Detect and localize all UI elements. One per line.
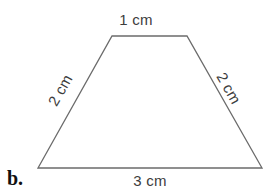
side-label-top: 1 cm — [119, 12, 152, 27]
figure-letter-label: b. — [7, 168, 23, 188]
trapezoid-figure: 1 cm 2 cm 2 cm 3 cm b. — [0, 0, 272, 193]
side-label-bottom: 3 cm — [133, 173, 166, 188]
